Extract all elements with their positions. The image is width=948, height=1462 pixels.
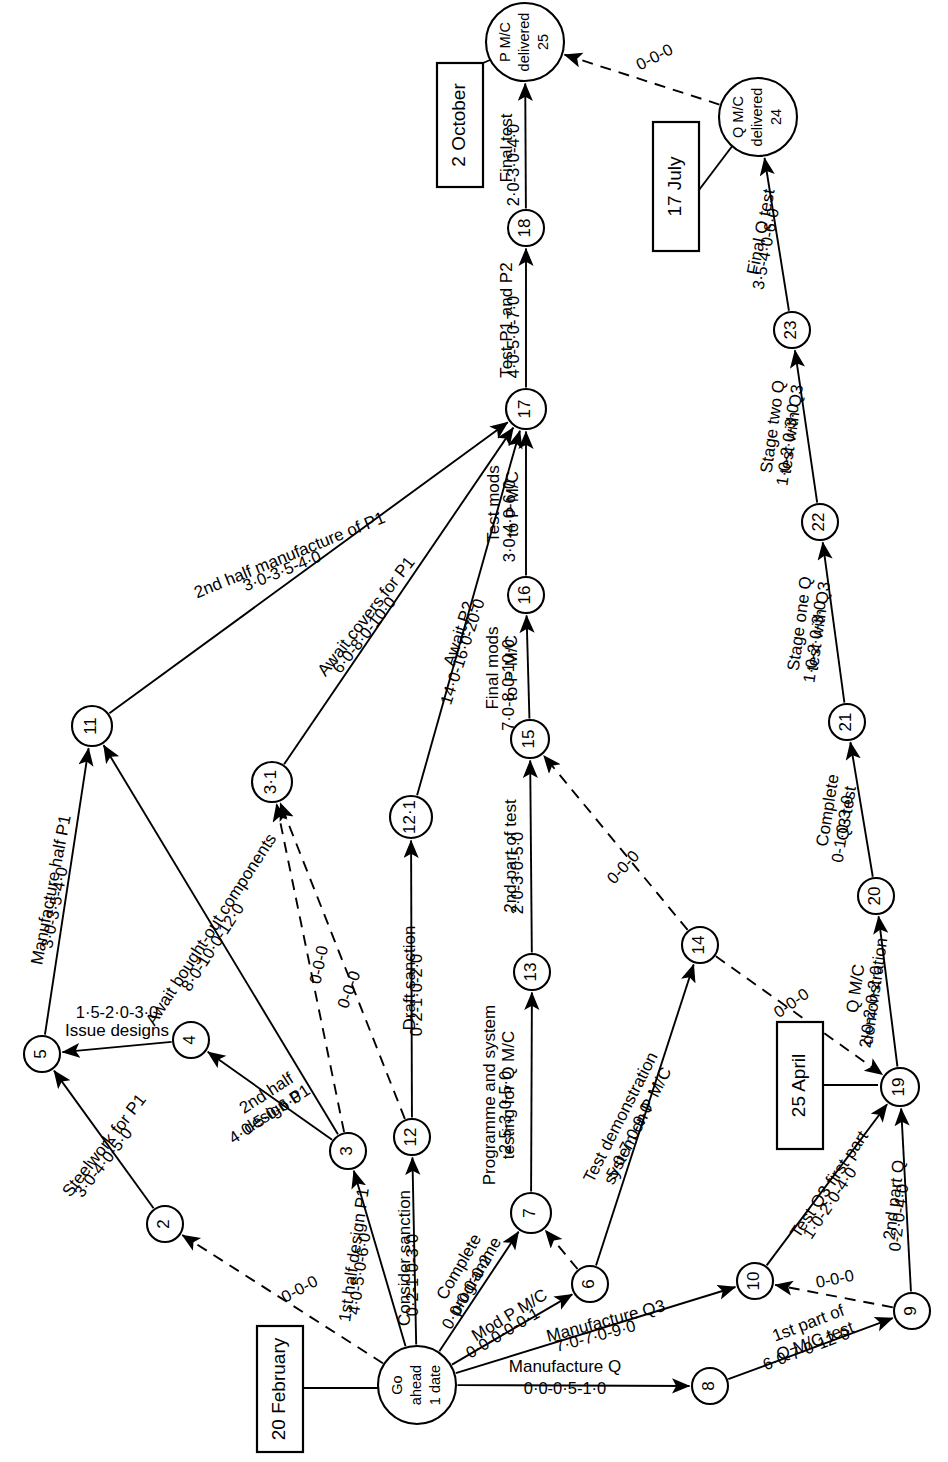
node-label-go: 1 date [427, 1365, 443, 1405]
node-label-22: 22 [809, 513, 828, 532]
node-20[interactable]: 20 [858, 878, 894, 914]
node-layer: Goahead1 date233·145678910111212·1131415… [24, 3, 930, 1424]
node-4[interactable]: 4 [173, 1022, 209, 1058]
edge-label-2-5: Steelwork for P13·0-4·0-5·0 [58, 1090, 157, 1205]
node-9[interactable]: 9 [894, 1293, 930, 1329]
activity-duration: 3·0-4·0-6·0 [500, 480, 518, 563]
activity-duration: 0·0-0·5-1·0 [524, 1379, 607, 1397]
edge-label-11-17: 2nd half manufacture of P13·0-3·5-4·0 [191, 508, 391, 612]
edge-label-23-24: Final Q test3·5-4·0-6·0 [741, 187, 786, 291]
edge-18-to-25 [525, 83, 526, 208]
node-label-21: 21 [836, 713, 855, 732]
box-17-july: 17 July [653, 122, 733, 251]
node-label-16: 16 [515, 586, 534, 605]
node-19[interactable]: 19 [881, 1068, 919, 1106]
node-11[interactable]: 11 [72, 706, 112, 746]
node-label-12.1: 12·1 [400, 800, 419, 834]
node-17[interactable]: 17 [506, 389, 546, 429]
edge-13-to-15 [530, 760, 532, 952]
edge-label-19-20: Q M/Cdemonstration2·0-2·0-2·0 [838, 934, 891, 1049]
network-diagram-canvas: 2 October17 July25 April20 February Goah… [0, 0, 948, 1462]
node-13[interactable]: 13 [514, 954, 550, 990]
edge-label-24-25: 0-0-0 [633, 40, 676, 74]
edge-label-go-3: 1st half design P14·0-5·0-6·0 [335, 1187, 379, 1324]
node-label-14: 14 [689, 936, 708, 955]
node-6[interactable]: 6 [572, 1266, 608, 1302]
node-label-9: 9 [901, 1306, 920, 1315]
node-16[interactable]: 16 [508, 577, 544, 613]
edge-label-21-22: Stage one Qtest with Q31·0-2·0-3·0 [782, 575, 834, 684]
node-label-20: 20 [865, 887, 884, 906]
node-10[interactable]: 10 [737, 1263, 773, 1299]
node-label-25: delivered [516, 13, 532, 72]
node-label-24: 24 [768, 109, 784, 125]
node-label-25: P M/C [497, 22, 513, 62]
node-label-12: 12 [401, 1128, 420, 1147]
node-label-go: Go [389, 1375, 405, 1394]
node-label-24: Q M/C [730, 96, 746, 138]
node-7[interactable]: 7 [511, 1193, 551, 1233]
node-22[interactable]: 22 [802, 504, 838, 540]
node-12[interactable]: 12 [394, 1119, 430, 1155]
activity-duration: 0·2-1·0-3·0 [403, 1234, 421, 1317]
edge-14-to-15 [544, 756, 688, 930]
node-label-25: 25 [535, 34, 551, 50]
node-12.1[interactable]: 12·1 [390, 796, 432, 838]
node-label-15: 15 [519, 730, 538, 749]
node-label-6: 6 [579, 1279, 598, 1288]
node-3[interactable]: 3 [330, 1133, 366, 1169]
edge-label-5-11: Manufacture half P13·0-3·5-4·0 [27, 813, 80, 967]
edge-label-14-19: 0-0-0 [770, 984, 812, 1021]
activity-name: Manufacture Q [509, 1357, 621, 1376]
node-14[interactable]: 14 [682, 927, 718, 963]
node-5[interactable]: 5 [24, 1036, 60, 1072]
edge-6-to-7 [545, 1230, 577, 1269]
edge-label-3.1-17: Await covers for P16·0-8·0-10·0 [314, 553, 426, 685]
node-24[interactable]: Q M/Cdelivered24 [719, 78, 797, 156]
activity-duration: 0-0-0 [814, 1266, 855, 1291]
node-label-17: 17 [515, 400, 534, 419]
node-go[interactable]: Goahead1 date [378, 1346, 456, 1424]
node-label-11: 11 [81, 717, 100, 735]
edge-label-8-9: 1st part ofQ M/C test6·0-7·0-12·0 [752, 1300, 858, 1374]
edge-label-3-4: 2nd halfdesign P14·0-5·0-6·0 [215, 1065, 314, 1148]
edge-label-layer: 0-0-01st half design P14·0-5·0-6·0Consid… [27, 40, 914, 1398]
edge-12-to-3.1 [280, 803, 405, 1119]
node-8[interactable]: 8 [692, 1368, 728, 1404]
edge-label-go-2: 0-0-0 [278, 1272, 320, 1306]
edge-4-to-5 [62, 1042, 171, 1052]
node-label-7: 7 [520, 1208, 539, 1217]
node-label-5: 5 [31, 1049, 50, 1058]
edge-label-12.1-17: Await P214·0-16·0-20·0 [428, 594, 488, 707]
edge-layer [45, 55, 911, 1386]
edge-label-go-10: Manufacture Q37·0-7·0-9·0 [544, 1296, 669, 1356]
activity-duration: 0·2-1·0-2·0 [407, 954, 425, 1037]
edge-label-go-8: Manufacture Q0·0-0·5-1·0 [509, 1357, 621, 1397]
node-label-24: delivered [749, 88, 765, 147]
activity-duration: 0-0-0 [278, 1272, 320, 1306]
node-23[interactable]: 23 [774, 312, 810, 348]
node-label-8: 8 [699, 1381, 718, 1390]
box-20-february: 20 February [257, 1326, 379, 1452]
edge-label-9-10: 0-0-0 [814, 1266, 855, 1291]
activity-duration: 0-0-0 [633, 40, 676, 74]
activity-duration: 2·0-3·0-5·0 [508, 832, 526, 915]
node-label-18: 18 [515, 219, 534, 238]
edge-label-22-23: Stage two Qtest with Q31·0-2·0-3·0 [755, 379, 807, 487]
edge-label-7-13: Programme and systemtesting for Q M/C2·5… [480, 1005, 518, 1185]
node-21[interactable]: 21 [829, 704, 865, 740]
node-label-10: 10 [744, 1272, 763, 1291]
network-diagram-svg: 2 October17 July25 April20 February Goah… [0, 0, 948, 1462]
node-2[interactable]: 2 [147, 1206, 183, 1242]
activity-duration: 2·0-3·0-4·0 [504, 124, 522, 207]
edge-label-3-11: Await bought-out components8·0-10·0-12·0 [142, 830, 289, 1034]
node-3.1[interactable]: 3·1 [252, 762, 292, 802]
edge-label-12-12.1: Draft sanction0·2-1·0-2·0 [400, 926, 425, 1037]
node-18[interactable]: 18 [508, 210, 544, 246]
edge-label-go-12: Consider sanction0·2-1·0-3·0 [395, 1190, 421, 1326]
node-label-13: 13 [521, 963, 540, 982]
node-label-3.1: 3·1 [261, 770, 280, 795]
node-label-go: ahead [408, 1365, 424, 1405]
node-25[interactable]: P M/Cdelivered25 [486, 3, 564, 81]
activity-name: 2nd half manufacture of P1 [191, 508, 387, 602]
